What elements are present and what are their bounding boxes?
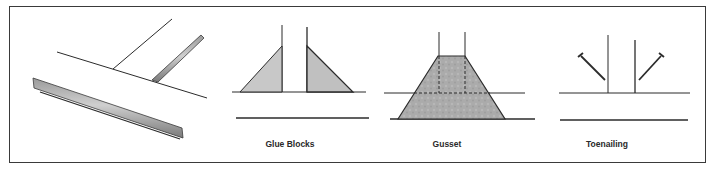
glue-block-left — [240, 46, 282, 92]
label-toenailing: Toenailing — [586, 139, 628, 149]
gusset-plate — [398, 56, 505, 119]
rail-top-edge — [57, 52, 207, 98]
nail-left — [581, 56, 605, 80]
glue-block-right — [307, 46, 353, 92]
upright-left-edge — [113, 19, 172, 69]
gusset-panel — [384, 32, 535, 119]
label-glue-blocks: Glue Blocks — [265, 139, 314, 149]
upright-edge-board — [152, 35, 204, 82]
bottom-rail-board — [33, 78, 183, 138]
perspective-panel — [33, 19, 207, 139]
glue-blocks-panel — [232, 25, 369, 118]
label-gusset: Gusset — [433, 139, 462, 149]
nail-right — [639, 56, 661, 80]
toenailing-panel — [559, 35, 690, 120]
